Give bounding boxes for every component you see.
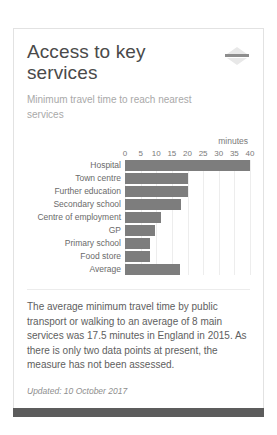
x-tick-label: 20 [183, 148, 192, 160]
category-label: Further education [27, 186, 125, 197]
collapse-minus-icon[interactable] [224, 46, 250, 66]
bar-row [125, 173, 250, 184]
bar [125, 160, 250, 171]
category-label: Food store [27, 251, 125, 262]
bar-row [125, 251, 250, 262]
bar [125, 264, 180, 275]
page-title: Access to key services [27, 41, 205, 83]
section-divider [27, 289, 250, 290]
x-tick-label: 30 [214, 148, 223, 160]
x-axis-ticks: 0510152025303540 [125, 148, 250, 160]
bar-row [125, 225, 250, 236]
bar [125, 212, 161, 223]
category-label: Average [27, 264, 125, 275]
access-to-key-services-card: Access to key services Minimum travel ti… [13, 28, 264, 409]
bar [125, 251, 150, 262]
category-label: Primary school [27, 238, 125, 249]
category-label: Hospital [27, 160, 125, 171]
triangle-down-accent [227, 58, 247, 65]
bar-row [125, 238, 250, 249]
gridline [250, 160, 251, 275]
x-tick-label: 15 [167, 148, 176, 160]
minus-bar [225, 54, 249, 57]
category-label: GP [27, 225, 125, 236]
card-header: Access to key services [27, 41, 250, 83]
bar-row [125, 186, 250, 197]
category-label: Town centre [27, 173, 125, 184]
plot-area: 0510152025303540 [125, 148, 250, 277]
bar [125, 199, 181, 210]
bar [125, 186, 188, 197]
bar-row [125, 199, 250, 210]
plot-wrapper: HospitalTown centreFurther educationSeco… [27, 148, 250, 277]
x-tick-label: 10 [152, 148, 161, 160]
description-text: The average minimum travel time by publi… [27, 300, 250, 373]
bar [125, 238, 150, 249]
axis-unit-label: minutes [27, 136, 250, 146]
bar [125, 173, 188, 184]
updated-timestamp: Updated: 10 October 2017 [27, 385, 250, 397]
category-label: Centre of employment [27, 212, 125, 223]
bar-row [125, 160, 250, 171]
category-axis: HospitalTown centreFurther educationSeco… [27, 148, 125, 277]
card-subtitle: Minimum travel time to reach nearest ser… [27, 92, 202, 122]
bars-container [125, 160, 250, 275]
x-tick-label: 25 [199, 148, 208, 160]
card-inner: Access to key services Minimum travel ti… [14, 29, 263, 409]
bar-row [125, 264, 250, 275]
bar [125, 225, 155, 236]
x-tick-label: 35 [230, 148, 239, 160]
x-tick-label: 40 [246, 148, 255, 160]
x-tick-label: 5 [138, 148, 142, 160]
bar-chart: minutes HospitalTown centreFurther educa… [27, 136, 250, 277]
category-label: Secondary school [27, 199, 125, 210]
x-tick-label: 0 [123, 148, 127, 160]
triangle-up-accent [227, 47, 247, 54]
footer-bar [13, 408, 264, 417]
bar-row [125, 212, 250, 223]
